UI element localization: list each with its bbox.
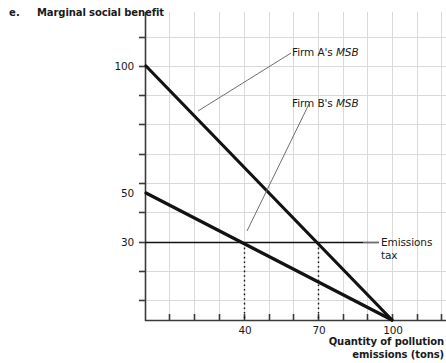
- x-tick-label-40: 40: [228, 324, 262, 336]
- x-axis-title-line1: Quantity of pollution: [329, 336, 444, 349]
- emissions-tax-label: Emissions tax: [381, 236, 432, 262]
- firm-b-leader-line: [247, 104, 309, 231]
- y-tick-label-100: 100: [100, 60, 134, 72]
- firm-b-msb-label-prefix: Firm B's: [292, 97, 336, 109]
- x-axis-title: Quantity of pollution emissions (tons): [329, 336, 444, 361]
- emissions-tax-label-line1: Emissions: [381, 236, 432, 249]
- figure-container: e. Marginal social benefit: [0, 0, 446, 363]
- firm-b-msb-label-abbrev: MSB: [336, 97, 359, 109]
- x-tick-label-70: 70: [302, 324, 336, 336]
- y-tick-label-30: 30: [100, 236, 134, 248]
- emissions-tax-label-line2: tax: [381, 249, 432, 262]
- firm-a-msb-label-prefix: Firm A's: [292, 46, 336, 58]
- x-axis-title-line2: emissions (tons): [329, 349, 444, 362]
- chart-plot-area: [0, 0, 446, 363]
- y-tick-label-50: 50: [100, 187, 134, 199]
- firm-b-msb-label: Firm B's MSB: [292, 97, 359, 109]
- firm-a-msb-label-abbrev: MSB: [336, 46, 359, 58]
- x-tick-label-100: 100: [376, 324, 410, 336]
- firm-a-msb-label: Firm A's MSB: [292, 46, 359, 58]
